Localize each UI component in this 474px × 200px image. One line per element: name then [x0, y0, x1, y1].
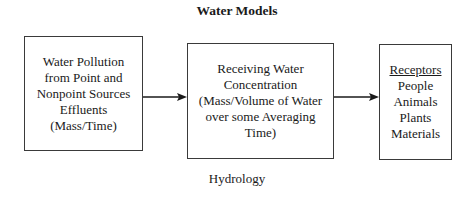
receptor-item: Plants — [400, 110, 432, 126]
receiving-line: Time) — [245, 125, 276, 141]
diagram-title: Water Models — [0, 3, 474, 19]
receiving-line: Concentration — [224, 77, 298, 93]
hydrology-label: Hydrology — [0, 171, 474, 187]
source-line: Effluents — [60, 102, 107, 118]
receiving-line: (Mass/Volume of Water — [199, 93, 322, 109]
arrow-right-icon — [334, 92, 379, 102]
receiving-line: over some Averaging — [205, 109, 315, 125]
receptor-item: People — [398, 78, 433, 94]
receiving-line: Receiving Water — [217, 61, 303, 77]
receptor-item: Materials — [391, 126, 440, 142]
arrow-right-icon — [143, 92, 187, 102]
receptors-box: Receptors People Animals Plants Material… — [379, 44, 452, 160]
source-box: Water Pollution from Point and Nonpoint … — [24, 36, 143, 151]
receiving-water-box: Receiving Water Concentration (Mass/Volu… — [187, 43, 334, 159]
receptor-item: Animals — [393, 94, 437, 110]
source-line: (Mass/Time) — [50, 118, 117, 134]
source-line: Nonpoint Sources — [37, 86, 131, 102]
source-line: from Point and — [45, 70, 123, 86]
receptors-heading: Receptors — [390, 62, 442, 78]
source-line: Water Pollution — [43, 54, 125, 70]
